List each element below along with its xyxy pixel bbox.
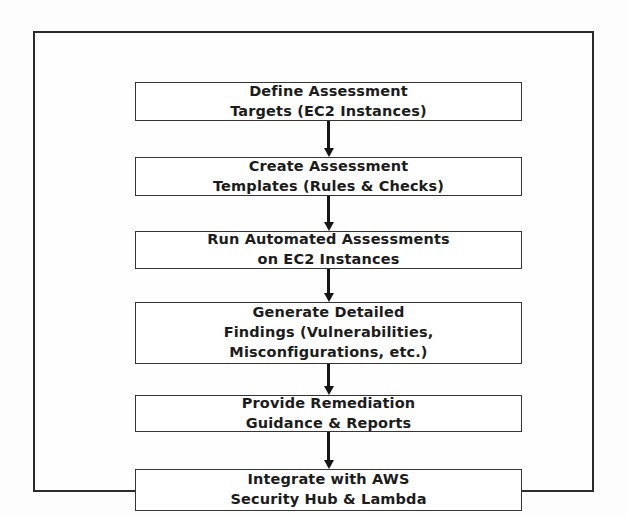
flow-node-define-assessment-targets: Define Assessment Targets (EC2 Instances… bbox=[135, 82, 522, 121]
arrow-head bbox=[324, 293, 334, 302]
arrow-down-icon bbox=[326, 269, 332, 302]
arrow-head bbox=[324, 148, 334, 157]
flow-node-run-automated-assessments: Run Automated Assessments on EC2 Instanc… bbox=[135, 231, 522, 269]
flow-node-label: Generate Detailed Findings (Vulnerabilit… bbox=[218, 303, 440, 362]
flow-node-label: Define Assessment Targets (EC2 Instances… bbox=[224, 82, 433, 121]
flow-node-label: Integrate with AWS Security Hub & Lambda bbox=[224, 470, 432, 509]
arrow-stem bbox=[327, 121, 330, 148]
flow-node-provide-remediation-guidance: Provide Remediation Guidance & Reports bbox=[135, 395, 522, 432]
arrow-down-icon bbox=[326, 364, 332, 395]
flow-node-label: Create Assessment Templates (Rules & Che… bbox=[207, 157, 450, 196]
flow-node-label: Run Automated Assessments on EC2 Instanc… bbox=[201, 230, 456, 269]
arrow-stem bbox=[327, 432, 330, 460]
flow-node-integrate-with-aws: Integrate with AWS Security Hub & Lambda bbox=[135, 469, 522, 511]
arrow-stem bbox=[327, 196, 330, 222]
flow-node-create-assessment-templates: Create Assessment Templates (Rules & Che… bbox=[135, 157, 522, 196]
flow-node-generate-detailed-findings: Generate Detailed Findings (Vulnerabilit… bbox=[135, 302, 522, 364]
arrow-stem bbox=[327, 364, 330, 386]
arrow-down-icon bbox=[326, 432, 332, 469]
flow-node-label: Provide Remediation Guidance & Reports bbox=[236, 394, 422, 433]
arrow-down-icon bbox=[326, 196, 332, 231]
arrow-head bbox=[324, 460, 334, 469]
diagram-canvas: Define Assessment Targets (EC2 Instances… bbox=[0, 0, 627, 516]
diagram-outer-frame: Define Assessment Targets (EC2 Instances… bbox=[33, 31, 594, 492]
arrow-down-icon bbox=[326, 121, 332, 157]
arrow-stem bbox=[327, 269, 330, 293]
